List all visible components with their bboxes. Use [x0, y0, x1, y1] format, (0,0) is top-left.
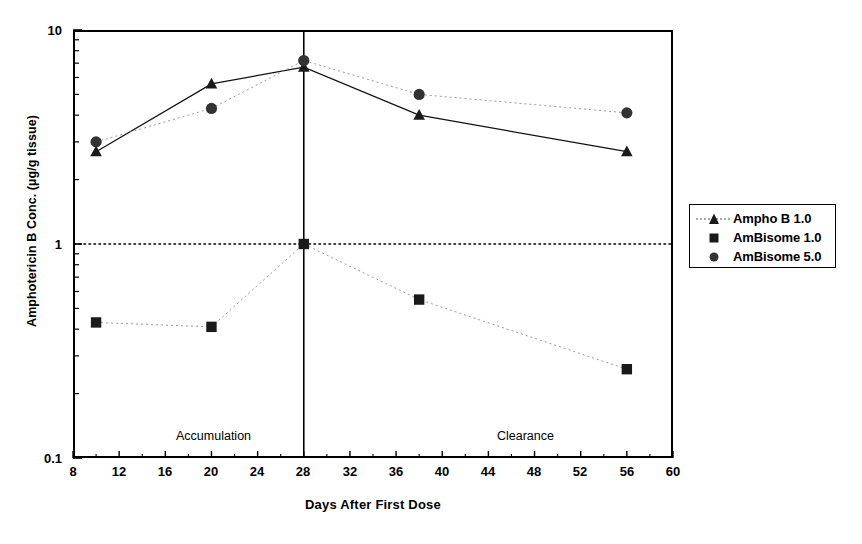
x-tick-label-12: 12 [112, 464, 126, 479]
y-tick-label-1: 1 [55, 237, 62, 252]
x-tick-label-40: 40 [435, 464, 449, 479]
x-axis-title: Days After First Dose [73, 497, 673, 512]
circle-marker-icon [695, 249, 733, 265]
x-tick-label-36: 36 [389, 464, 403, 479]
plot-area-frame [73, 30, 673, 458]
x-tick-label-28: 28 [296, 464, 310, 479]
square-marker-icon [695, 230, 733, 246]
legend: Ampho B 1.0 AmBisome 1.0 AmBisome 5.0 [689, 204, 836, 268]
y-tick-label-0-1: 0.1 [44, 451, 62, 466]
clearance-annotation: Clearance [497, 429, 554, 443]
legend-label-1: AmBisome 1.0 [733, 230, 821, 245]
x-tick-label-32: 32 [343, 464, 357, 479]
legend-label-2: AmBisome 5.0 [733, 249, 821, 264]
legend-label-0: Ampho B 1.0 [733, 211, 811, 226]
x-tick-label-16: 16 [158, 464, 172, 479]
legend-item-ambisome-1-0[interactable]: AmBisome 1.0 [690, 228, 835, 247]
x-tick-label-8: 8 [69, 464, 76, 479]
x-tick-label-52: 52 [573, 464, 587, 479]
legend-item-ampho-b-1-0[interactable]: Ampho B 1.0 [690, 209, 835, 228]
accumulation-annotation: Accumulation [176, 429, 251, 443]
legend-item-ambisome-5-0[interactable]: AmBisome 5.0 [690, 247, 835, 266]
x-tick-label-48: 48 [527, 464, 541, 479]
x-tick-label-60: 60 [666, 464, 680, 479]
x-tick-label-56: 56 [620, 464, 634, 479]
x-tick-label-24: 24 [250, 464, 264, 479]
y-axis-title: Amphotericin B Conc. (µg/g tissue) [25, 71, 39, 371]
x-tick-label-44: 44 [481, 464, 495, 479]
chart-figure: 10 1 0.1 8 12 16 20 24 28 32 36 40 44 48… [0, 0, 862, 544]
y-tick-label-10: 10 [48, 23, 62, 38]
x-tick-label-20: 20 [204, 464, 218, 479]
triangle-marker-icon [695, 211, 733, 227]
